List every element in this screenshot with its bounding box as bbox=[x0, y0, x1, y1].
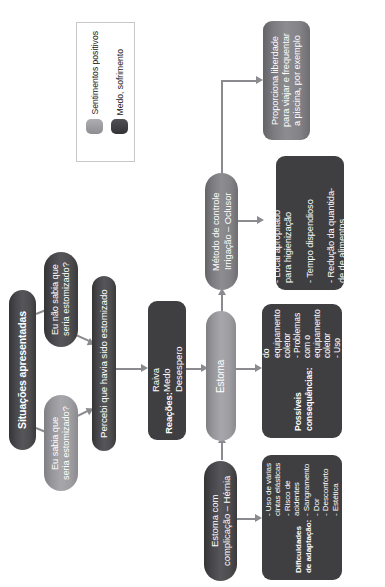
dificuldades-title: Dificuldades de adaptação: bbox=[292, 516, 315, 573]
node-eu-sabia[interactable]: Eu sabia que seria estomizado? bbox=[44, 395, 78, 491]
node-percebi-estomizado[interactable]: Percebi que havia sido estomizado bbox=[92, 276, 116, 451]
node-estoma-com-complicacao[interactable]: Estoma com complicação – Hérnia bbox=[204, 461, 237, 581]
node-proporciona-liberdade[interactable]: Proporciona liberdade para viajar e freq… bbox=[263, 21, 310, 140]
arrowhead-complicacao-to-dificuldades bbox=[255, 514, 262, 522]
node-label: Eu não sabia que seria estomizado? bbox=[48, 263, 74, 337]
edge-estoma-to-metodo bbox=[221, 292, 223, 312]
node-label: Método de controle Irrigação – Oclusor bbox=[208, 192, 234, 270]
node-dificuldades-adaptacao[interactable]: Dificuldades de adaptação: - Uso de vári… bbox=[262, 455, 342, 580]
legend: Sentimentos positivos Medo, sofrimento bbox=[76, 22, 135, 162]
reacoes-title: Reações: bbox=[161, 392, 176, 434]
node-label: Situações apresentadas bbox=[14, 311, 30, 429]
node-label: Estoma bbox=[213, 359, 229, 392]
consequencias-title: Possíveis consequências: bbox=[291, 358, 315, 431]
node-label: Eu sabia que seria estomizado? bbox=[48, 406, 74, 480]
legend-label: Medo, sofrimento bbox=[115, 49, 125, 115]
arrowhead-estoma-to-consequencias bbox=[255, 364, 262, 372]
node-label: Estoma com complicação – Hérnia bbox=[207, 476, 234, 566]
node-reacoes[interactable]: Reações: Raiva Medo Desespero bbox=[148, 301, 186, 440]
edge-metodo-to-liberdade-horizontal bbox=[221, 80, 257, 82]
legend-item-medo-sofrimento: Medo, sofrimento bbox=[111, 49, 128, 134]
node-label: Proporciona liberdade para viajar e freq… bbox=[268, 34, 305, 128]
node-estoma[interactable]: Estoma bbox=[206, 311, 236, 441]
node-possiveis-consequencias[interactable]: Possíveis consequências: - Lesão de pele… bbox=[262, 304, 342, 438]
legend-swatch-sentimentos-positivos bbox=[86, 119, 103, 134]
reacoes-items: Raiva Medo Desespero bbox=[148, 347, 186, 393]
dificuldades-items: - Uso de várias cintas elásticas - Risco… bbox=[262, 455, 342, 516]
legend-swatch-medo-sofrimento bbox=[111, 119, 128, 134]
legend-item-sentimentos-positivos: Sentimentos positivos bbox=[86, 31, 103, 134]
arrowhead-metodo-to-liberdade bbox=[256, 76, 263, 84]
node-metodo-de-controle[interactable]: Método de controle Irrigação – Oclusor bbox=[205, 173, 238, 290]
node-situacoes-apresentadas[interactable]: Situações apresentadas bbox=[9, 290, 36, 450]
node-label: Percebi que havia sido estomizado bbox=[96, 289, 112, 438]
node-eu-nao-sabia[interactable]: Eu não sabia que seria estomizado? bbox=[44, 252, 78, 347]
node-irrigacao-limitacoes[interactable]: - Local apropriado para higienização - T… bbox=[276, 156, 344, 290]
node-label: - Local apropriado para higienização - T… bbox=[276, 188, 344, 283]
edge-percebi-to-reacoes bbox=[116, 368, 142, 370]
edge-metodo-to-liberdade-vertical bbox=[221, 80, 223, 174]
arrowhead-percebi-to-reacoes bbox=[141, 364, 148, 372]
edge-complicacao-to-estoma bbox=[221, 440, 223, 460]
arrowhead-metodo-to-contras bbox=[257, 216, 264, 224]
legend-label: Sentimentos positivos bbox=[90, 31, 100, 115]
flowchart-canvas: Situações apresentadas Eu não sabia que … bbox=[0, 0, 385, 587]
consequencias-items: - Lesão de pele - Descolamento do equipa… bbox=[262, 304, 342, 358]
